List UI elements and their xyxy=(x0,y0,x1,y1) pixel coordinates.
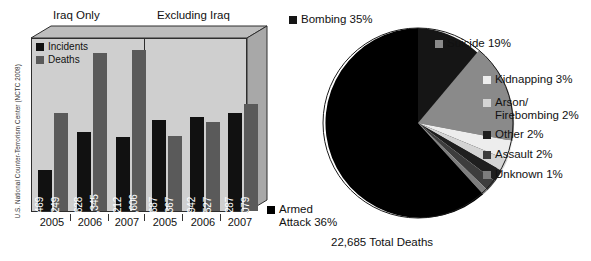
bar-group-excl-2007: 8,287 9,079 xyxy=(228,39,258,211)
bar-deaths-iraq-2005: 8,249 xyxy=(54,113,68,211)
pie-label-text-other: Other 2% xyxy=(495,128,544,140)
x-axis-tick xyxy=(70,214,71,221)
pie-chart-panel: Bombing 35% Suicide 19% Kidnapping 3% Ar… xyxy=(285,0,591,261)
pie-swatch-other xyxy=(483,131,491,139)
bar-deaths-excl-2005: 6,367 xyxy=(168,136,182,211)
pie-label-text-kidnapping: Kidnapping 3% xyxy=(495,73,572,85)
bar-deaths-iraq-2007: 13,606 xyxy=(132,50,146,211)
pie-swatch-unknown xyxy=(483,171,491,179)
x-label-iraq-2007: 2007 xyxy=(110,216,144,228)
x-label-iraq-2005: 2005 xyxy=(35,216,69,228)
pie-total-caption: 22,685 Total Deaths xyxy=(331,236,433,248)
pie-label-text-bombing: Bombing 35% xyxy=(301,13,373,25)
pie-label-text-suicide: Suicide 19% xyxy=(447,37,511,49)
pie-swatch-kidnapping xyxy=(483,76,491,84)
pie-swatch-suicide xyxy=(435,40,443,48)
bar-group-iraq-2006: 6,628 13,345 xyxy=(77,39,107,211)
pie-label-text-arson: Arson/ Firebombing 2% xyxy=(495,96,591,122)
x-label-excl-2005: 2005 xyxy=(148,216,182,228)
bar-group-excl-2005: 7,687 6,367 xyxy=(152,39,182,211)
pie-swatch-assault xyxy=(483,151,491,159)
bar-chart-panel: Iraq Only Excluding Iraq U.S. National C… xyxy=(0,0,285,261)
pie-swatch-arson xyxy=(483,99,491,107)
bar-deaths-excl-2007: 9,079 xyxy=(244,104,258,211)
bars-container: 3,469 8,249 6,628 13,345 6,212 xyxy=(32,39,246,211)
bar-deaths-excl-2006: 7,527 xyxy=(206,122,220,211)
x-axis-tick xyxy=(108,214,109,221)
pie-label-bombing: Bombing 35% xyxy=(289,13,373,26)
pie-label-suicide: Suicide 19% xyxy=(435,37,511,50)
bar-group-iraq-2005: 3,469 8,249 xyxy=(38,39,68,211)
pie-swatch-armed-attack xyxy=(267,206,275,214)
pie-label-arson: Arson/ Firebombing 2% xyxy=(483,96,591,122)
x-label-excl-2007: 2007 xyxy=(223,216,257,228)
pie-label-text-assault: Assault 2% xyxy=(495,148,553,160)
x-label-iraq-2006: 2006 xyxy=(73,216,107,228)
pie-label-armed-attack: Armed Attack 36% xyxy=(267,203,379,229)
pie-label-unknown: Unknown 1% xyxy=(483,168,563,181)
pie-label-assault: Assault 2% xyxy=(483,148,553,161)
bar-chart-x-axis: 2005 2006 2007 2005 2006 2007 xyxy=(31,214,247,236)
x-axis-tick xyxy=(182,214,183,221)
pie-label-kidnapping: Kidnapping 3% xyxy=(483,73,572,86)
figure-root: Iraq Only Excluding Iraq U.S. National C… xyxy=(0,0,591,261)
pie-label-other: Other 2% xyxy=(483,128,544,141)
bar-group-iraq-2007: 6,212 13,606 xyxy=(116,39,146,211)
pie-swatch-bombing xyxy=(289,16,297,24)
x-axis-tick xyxy=(144,214,145,221)
x-label-excl-2006: 2006 xyxy=(186,216,220,228)
pie-label-text-unknown: Unknown 1% xyxy=(495,168,563,180)
x-axis-tick xyxy=(220,214,221,221)
bar-deaths-iraq-2006: 13,345 xyxy=(93,53,107,211)
pie-label-text-armed-attack: Armed Attack 36% xyxy=(279,203,345,229)
bar-group-excl-2006: 7,942 7,527 xyxy=(190,39,220,211)
